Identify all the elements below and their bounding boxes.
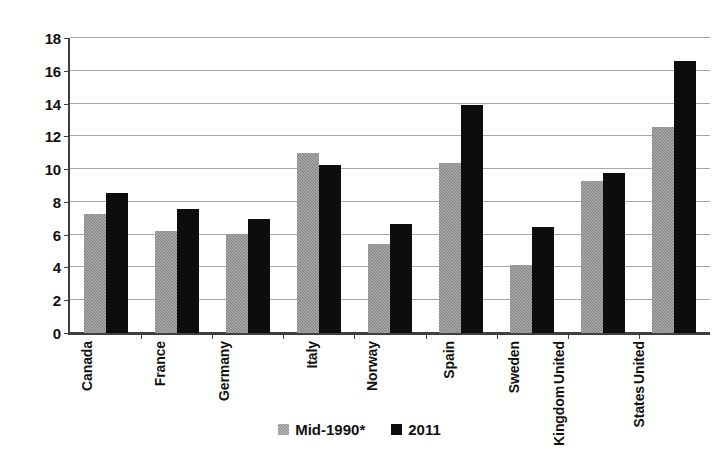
bar-group [639,38,710,333]
x-axis-label: Spain [441,341,457,379]
x-axis-label: France [152,341,168,386]
legend-item-label: 2011 [408,421,441,438]
plot-wrapper: 181614121086420 [68,38,710,335]
bar[interactable] [177,209,199,333]
x-axis-label-cell: UnitedStates [639,339,710,417]
bar[interactable] [248,219,270,333]
x-axis-label-cell: Norway [353,339,424,417]
gray-square-icon [278,424,289,435]
bar-group [141,38,212,333]
x-axis-label: Sweden [505,341,521,393]
bar[interactable] [84,214,106,333]
y-tick-mark [64,333,70,334]
bar[interactable] [106,193,128,333]
y-tick-label: 16 [45,62,61,79]
chart-legend: Mid-1990*2011 [0,421,719,438]
legend-item[interactable]: 2011 [391,421,441,438]
x-axis-label-cell: Canada [68,339,139,417]
x-axis-label-cell: France [139,339,210,417]
bar[interactable] [319,165,341,333]
bars-layer [70,38,710,333]
black-square-icon [391,424,402,435]
y-tick-label: 12 [45,128,61,145]
bar-group [426,38,497,333]
bar-chart: 181614121086420 CanadaFranceGermanyItaly… [0,0,719,457]
y-tick-label: 0 [53,325,61,342]
bar[interactable] [461,105,483,333]
y-tick-label: 18 [45,30,61,47]
bar[interactable] [368,244,390,333]
bar-group [283,38,354,333]
legend-item-label: Mid-1990* [295,421,365,438]
x-axis-label: UnitedStates [631,341,647,427]
bar-group [568,38,639,333]
bar-group [212,38,283,333]
bar[interactable] [510,265,532,333]
x-axis-label-cell: Spain [425,339,496,417]
x-axis-label: Italy [304,341,320,369]
bar[interactable] [226,234,248,333]
bar[interactable] [297,153,319,333]
x-axis-label: Germany [216,341,232,401]
bar[interactable] [532,227,554,333]
y-tick-label: 2 [53,292,61,309]
bar-group [497,38,568,333]
bar-group [70,38,141,333]
x-axis-label-cell: Germany [211,339,282,417]
x-axis-label-cell: Italy [282,339,353,417]
y-tick-label: 8 [53,193,61,210]
bar-group [354,38,425,333]
y-tick-label: 6 [53,226,61,243]
bar[interactable] [674,61,696,333]
plot-area: 181614121086420 [68,38,710,335]
y-tick-label: 4 [53,259,61,276]
bar[interactable] [390,224,412,333]
bar[interactable] [439,163,461,333]
x-axis-label: Norway [364,341,380,391]
x-axis-labels: CanadaFranceGermanyItalyNorwaySpainSwede… [68,339,710,417]
x-axis-label-line: United [550,341,566,384]
bar[interactable] [603,173,625,333]
x-axis-label: Canada [79,341,95,391]
y-tick-label: 10 [45,161,61,178]
x-axis-label-cell: UnitedKingdom [567,339,638,417]
bar[interactable] [652,127,674,333]
bar[interactable] [155,231,177,333]
bar[interactable] [581,181,603,333]
x-axis-label-line: United [631,341,647,384]
legend-item[interactable]: Mid-1990* [278,421,365,438]
y-tick-label: 14 [45,95,61,112]
